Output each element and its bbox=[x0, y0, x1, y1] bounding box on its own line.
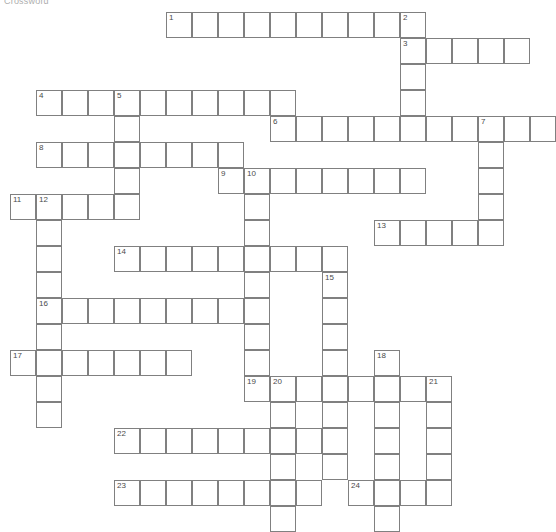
crossword-cell[interactable] bbox=[244, 324, 270, 350]
crossword-cell[interactable] bbox=[400, 220, 426, 246]
crossword-cell[interactable]: 5 bbox=[114, 90, 140, 116]
crossword-cell[interactable]: 13 bbox=[374, 220, 400, 246]
crossword-cell[interactable] bbox=[36, 272, 62, 298]
crossword-cell[interactable] bbox=[62, 194, 88, 220]
crossword-cell[interactable] bbox=[166, 298, 192, 324]
crossword-cell[interactable] bbox=[400, 90, 426, 116]
crossword-cell[interactable] bbox=[166, 480, 192, 506]
crossword-cell[interactable] bbox=[192, 428, 218, 454]
crossword-cell[interactable] bbox=[374, 376, 400, 402]
crossword-cell[interactable] bbox=[88, 350, 114, 376]
crossword-cell[interactable] bbox=[504, 38, 530, 64]
crossword-cell[interactable] bbox=[322, 402, 348, 428]
crossword-cell[interactable] bbox=[270, 90, 296, 116]
crossword-cell[interactable] bbox=[140, 350, 166, 376]
crossword-cell[interactable]: 16 bbox=[36, 298, 62, 324]
crossword-cell[interactable] bbox=[114, 142, 140, 168]
crossword-cell[interactable] bbox=[426, 454, 452, 480]
crossword-cell[interactable] bbox=[478, 194, 504, 220]
crossword-cell[interactable] bbox=[400, 168, 426, 194]
crossword-cell[interactable] bbox=[270, 12, 296, 38]
crossword-cell[interactable] bbox=[88, 90, 114, 116]
crossword-cell[interactable] bbox=[218, 142, 244, 168]
crossword-cell[interactable] bbox=[140, 142, 166, 168]
crossword-cell[interactable] bbox=[166, 428, 192, 454]
crossword-cell[interactable]: 19 bbox=[244, 376, 270, 402]
crossword-cell[interactable] bbox=[36, 350, 62, 376]
crossword-cell[interactable]: 12 bbox=[36, 194, 62, 220]
crossword-cell[interactable] bbox=[218, 428, 244, 454]
crossword-cell[interactable] bbox=[374, 168, 400, 194]
crossword-cell[interactable] bbox=[400, 64, 426, 90]
crossword-cell[interactable] bbox=[140, 90, 166, 116]
crossword-cell[interactable] bbox=[426, 428, 452, 454]
crossword-cell[interactable] bbox=[374, 116, 400, 142]
crossword-cell[interactable] bbox=[322, 246, 348, 272]
crossword-cell[interactable] bbox=[218, 480, 244, 506]
crossword-cell[interactable] bbox=[192, 480, 218, 506]
crossword-cell[interactable] bbox=[244, 272, 270, 298]
crossword-cell[interactable] bbox=[218, 298, 244, 324]
crossword-cell[interactable] bbox=[322, 168, 348, 194]
crossword-cell[interactable] bbox=[192, 12, 218, 38]
crossword-cell[interactable] bbox=[62, 298, 88, 324]
crossword-cell[interactable]: 21 bbox=[426, 376, 452, 402]
crossword-cell[interactable] bbox=[348, 116, 374, 142]
crossword-cell[interactable] bbox=[244, 480, 270, 506]
crossword-cell[interactable] bbox=[244, 220, 270, 246]
crossword-cell[interactable] bbox=[166, 350, 192, 376]
crossword-cell[interactable] bbox=[140, 480, 166, 506]
crossword-cell[interactable] bbox=[426, 402, 452, 428]
crossword-cell[interactable] bbox=[452, 116, 478, 142]
crossword-cell[interactable] bbox=[348, 168, 374, 194]
crossword-cell[interactable] bbox=[426, 480, 452, 506]
crossword-cell[interactable] bbox=[296, 246, 322, 272]
crossword-cell[interactable] bbox=[244, 12, 270, 38]
crossword-cell[interactable] bbox=[192, 298, 218, 324]
crossword-cell[interactable] bbox=[322, 350, 348, 376]
crossword-cell[interactable] bbox=[296, 116, 322, 142]
crossword-cell[interactable] bbox=[140, 428, 166, 454]
crossword-cell[interactable]: 17 bbox=[10, 350, 36, 376]
crossword-cell[interactable] bbox=[166, 142, 192, 168]
crossword-cell[interactable]: 8 bbox=[36, 142, 62, 168]
crossword-cell[interactable] bbox=[244, 246, 270, 272]
crossword-cell[interactable]: 14 bbox=[114, 246, 140, 272]
crossword-cell[interactable] bbox=[478, 142, 504, 168]
crossword-cell[interactable] bbox=[36, 246, 62, 272]
crossword-cell[interactable] bbox=[270, 402, 296, 428]
crossword-cell[interactable] bbox=[478, 168, 504, 194]
crossword-cell[interactable] bbox=[88, 298, 114, 324]
crossword-cell[interactable] bbox=[218, 246, 244, 272]
crossword-cell[interactable] bbox=[348, 12, 374, 38]
crossword-cell[interactable] bbox=[192, 246, 218, 272]
crossword-cell[interactable]: 18 bbox=[374, 350, 400, 376]
crossword-cell[interactable]: 3 bbox=[400, 38, 426, 64]
crossword-cell[interactable] bbox=[192, 142, 218, 168]
crossword-cell[interactable] bbox=[296, 376, 322, 402]
crossword-cell[interactable]: 24 bbox=[348, 480, 374, 506]
crossword-cell[interactable] bbox=[322, 454, 348, 480]
crossword-cell[interactable] bbox=[36, 402, 62, 428]
crossword-cell[interactable] bbox=[426, 220, 452, 246]
crossword-cell[interactable] bbox=[400, 480, 426, 506]
crossword-cell[interactable]: 9 bbox=[218, 168, 244, 194]
crossword-cell[interactable] bbox=[322, 12, 348, 38]
crossword-cell[interactable] bbox=[114, 116, 140, 142]
crossword-cell[interactable]: 6 bbox=[270, 116, 296, 142]
crossword-cell[interactable] bbox=[322, 428, 348, 454]
crossword-cell[interactable] bbox=[270, 454, 296, 480]
crossword-cell[interactable] bbox=[374, 428, 400, 454]
crossword-cell[interactable]: 10 bbox=[244, 168, 270, 194]
crossword-cell[interactable] bbox=[244, 90, 270, 116]
crossword-cell[interactable] bbox=[322, 324, 348, 350]
crossword-cell[interactable] bbox=[114, 298, 140, 324]
crossword-cell[interactable] bbox=[322, 376, 348, 402]
crossword-cell[interactable] bbox=[296, 12, 322, 38]
crossword-cell[interactable] bbox=[88, 142, 114, 168]
crossword-cell[interactable] bbox=[270, 246, 296, 272]
crossword-cell[interactable] bbox=[296, 428, 322, 454]
crossword-cell[interactable] bbox=[296, 480, 322, 506]
crossword-cell[interactable] bbox=[400, 116, 426, 142]
